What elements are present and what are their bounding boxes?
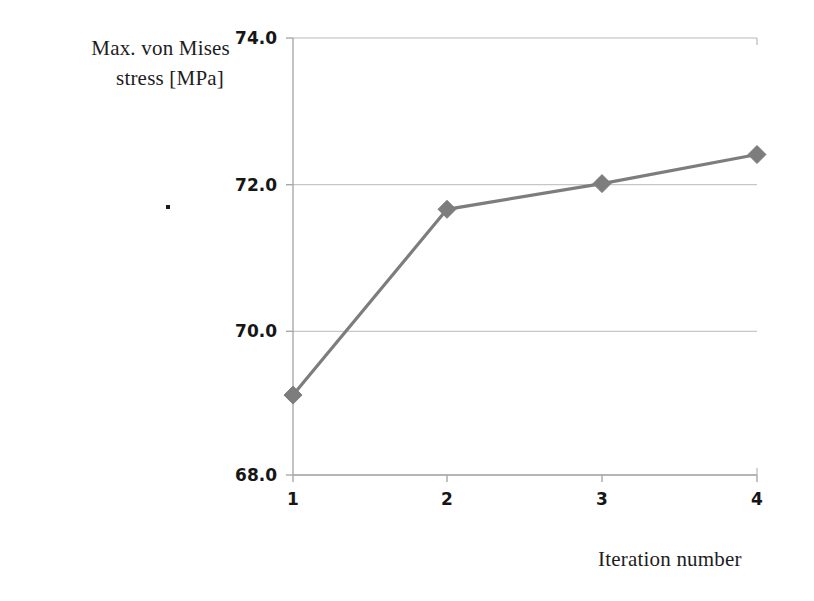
- plot-svg: 74.0 72.0 70.0 68.0 1 2 3 4: [0, 0, 814, 601]
- x-tick-label-1: 1: [287, 489, 299, 509]
- chart-figure: Max. von Mises stress [MPa]: [0, 0, 814, 601]
- data-series-line: [293, 155, 757, 396]
- x-axis-title: Iteration number: [598, 547, 742, 572]
- y-tick-label-74: 74.0: [235, 28, 277, 48]
- y-tick-label-68: 68.0: [235, 465, 277, 485]
- y-tick-label-72: 72.0: [235, 175, 277, 195]
- data-point-marker-4: [748, 146, 766, 164]
- plot-area: 74.0 72.0 70.0 68.0 1 2 3 4: [0, 0, 814, 601]
- x-tick-label-3: 3: [596, 489, 608, 509]
- data-point-marker-3: [593, 175, 611, 193]
- y-tick-label-70: 70.0: [235, 321, 277, 341]
- x-tick-label-4: 4: [751, 489, 763, 509]
- x-tick-label-2: 2: [441, 489, 453, 509]
